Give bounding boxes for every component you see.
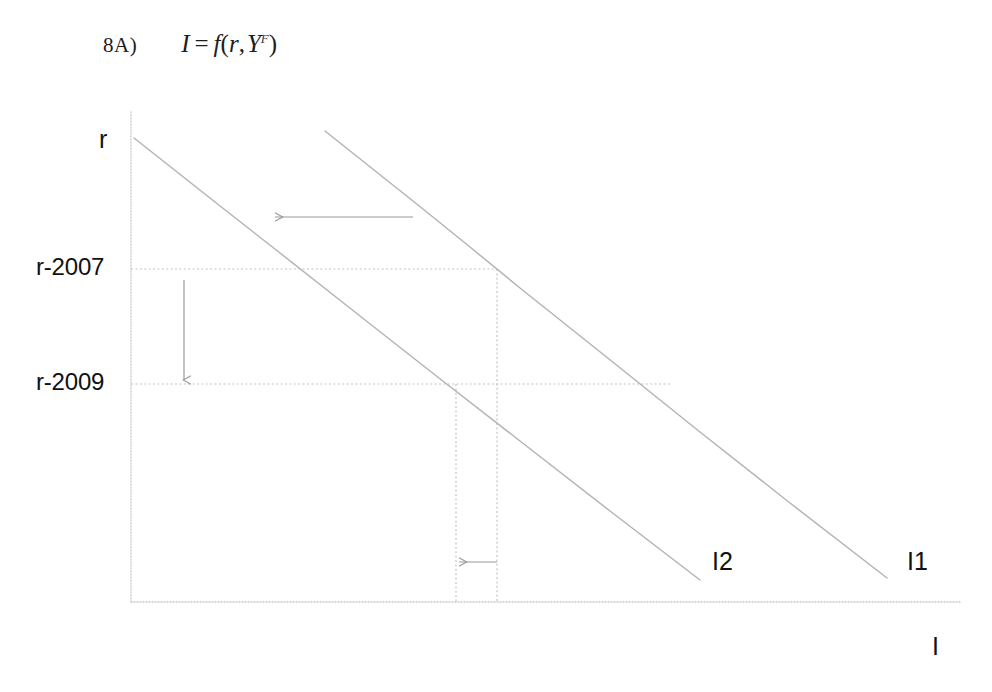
- guide-lines: [131, 269, 670, 602]
- axes: [131, 112, 960, 602]
- y-axis-label: r: [99, 125, 107, 154]
- x-axis-label: I: [932, 632, 939, 661]
- y-tick-label-r-2007: r-2007: [36, 253, 104, 281]
- curve-label-i2: I2: [712, 547, 733, 576]
- y-tick-label-r-2009: r-2009: [36, 368, 104, 396]
- investment-demand-plot: [0, 0, 992, 692]
- diagram-canvas: 8A) I=f(r,YF): [0, 0, 992, 692]
- curve-label-i1: I1: [907, 547, 928, 576]
- annotation-arrows: [184, 217, 497, 562]
- demand-curves: [134, 131, 887, 580]
